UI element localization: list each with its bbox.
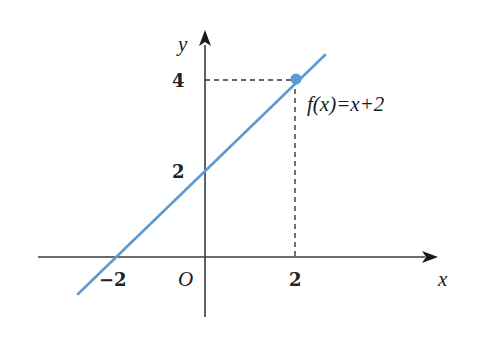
x-axis-label: x xyxy=(437,267,448,291)
point-2-4 xyxy=(291,74,302,85)
tick-y-2: 2 xyxy=(172,161,185,182)
function-graph: y x O 4 2 −2 2 f(x)=x+2 xyxy=(0,0,483,338)
y-axis-label: y xyxy=(176,32,188,56)
origin-label: O xyxy=(178,267,193,291)
tick-x-neg2: −2 xyxy=(99,269,127,290)
y-axis-arrow-icon xyxy=(199,30,211,46)
function-label: f(x)=x+2 xyxy=(307,92,385,116)
tick-y-4: 4 xyxy=(172,70,185,91)
tick-x-2: 2 xyxy=(289,269,302,290)
function-label-rest: (x)=x+2 xyxy=(313,92,385,116)
function-line xyxy=(78,55,325,294)
